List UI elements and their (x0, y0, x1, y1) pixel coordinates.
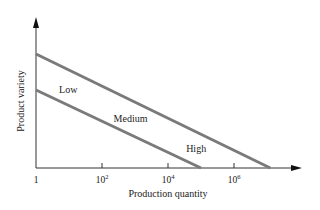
upper-boundary-line (36, 54, 270, 168)
x-tick-label: 104 (162, 173, 176, 185)
x-tick-label: 1 (34, 175, 39, 185)
region-label-high: High (186, 143, 206, 154)
region-label-low: Low (59, 84, 78, 95)
chart: 1102104106 LowMediumHigh Production quan… (0, 0, 320, 210)
x-axis-label: Production quantity (128, 188, 207, 199)
y-axis-label: Product variety (15, 70, 26, 131)
y-axis-arrow-icon (33, 17, 39, 28)
x-tick-label: 106 (228, 173, 242, 185)
region-labels: LowMediumHigh (59, 84, 206, 154)
x-axis-arrow-icon (291, 165, 302, 171)
x-tick-label: 102 (96, 173, 109, 185)
series (36, 54, 270, 168)
lower-boundary-line (36, 90, 201, 168)
x-ticks: 1102104106 (34, 163, 242, 185)
region-label-medium: Medium (114, 113, 148, 124)
